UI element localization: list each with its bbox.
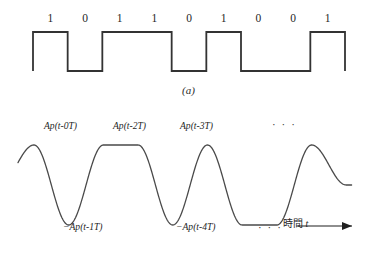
time-axis-label: 時間 t — [283, 215, 308, 230]
pulse-label-negative: −Ap(t-1T) — [63, 221, 103, 232]
caption-panel-a: (a) — [0, 84, 377, 96]
figure-root: 101101001 (a) Ap(t-0T)Ap(t-2T)Ap(t-3T) −… — [0, 0, 377, 269]
ellipsis-top: · · · — [272, 118, 297, 130]
pulse-label-positive: Ap(t-3T) — [180, 120, 213, 131]
pulse-label-negative: −Ap(t-4T) — [176, 221, 216, 232]
pulse-train-path — [18, 145, 352, 225]
time-axis-label-jp: 時間 — [283, 218, 303, 229]
panel-b-pulse-train: Ap(t-0T)Ap(t-2T)Ap(t-3T) −Ap(t-1T)−Ap(t-… — [0, 105, 377, 269]
ellipsis-bottom: · · · — [258, 221, 283, 233]
pulse-label-positive: Ap(t-2T) — [113, 120, 146, 131]
time-axis-variable: t — [306, 218, 309, 229]
pulse-label-positive: Ap(t-0T) — [44, 120, 77, 131]
panel-a-square-wave: 101101001 (a) — [0, 0, 377, 105]
square-wave-path — [33, 32, 345, 71]
